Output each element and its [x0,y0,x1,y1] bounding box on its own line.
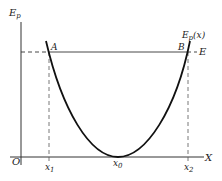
energy-line-label: E [198,46,207,57]
x2-label: x2 [184,162,194,174]
y-axis-label: Ep [8,7,21,20]
origin-label: O [12,156,20,167]
x1-label: x1 [45,162,55,174]
point-b-label: B [177,42,185,52]
potential-energy-diagram: Ep A B Ep(x) E X O x1 x0 x2 [0,0,222,181]
potential-curve [46,41,190,157]
curve-label: Ep(x) [181,30,206,42]
x0-label: x0 [113,158,123,170]
x-axis-label: X [204,152,213,163]
point-a-label: A [50,42,58,52]
